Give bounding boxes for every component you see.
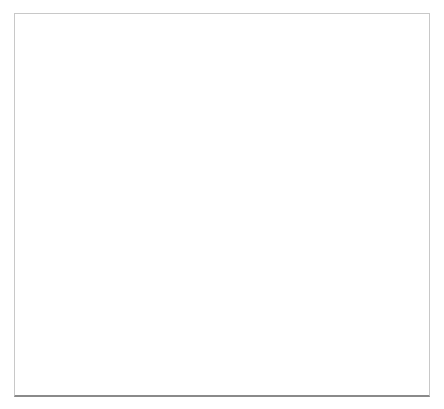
timeline-diagram [0,0,444,409]
